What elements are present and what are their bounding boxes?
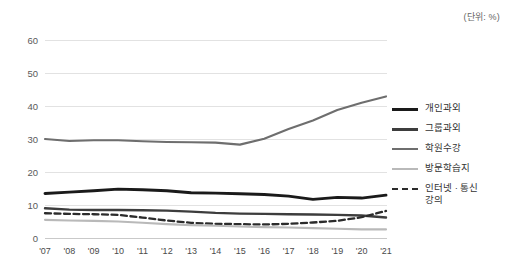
legend-item[interactable]: 그룹과외 <box>392 122 510 137</box>
x-axis-tick-label: '17 <box>283 246 295 256</box>
x-axis-tick-label: '09 <box>88 246 100 256</box>
x-axis-tick-label: '19 <box>331 246 343 256</box>
y-axis-tick-label: 20 <box>27 167 38 178</box>
legend-item[interactable]: 인터넷 · 통신 강의 <box>392 182 510 210</box>
y-axis-tick-label: 60 <box>27 35 38 46</box>
legend-swatch-icon <box>392 182 418 196</box>
legend-swatch-icon <box>392 142 418 156</box>
legend-item[interactable]: 개인과외 <box>392 102 510 117</box>
series-line <box>45 208 386 217</box>
y-axis-tick-label: 30 <box>27 134 38 145</box>
y-axis-tick-label: 10 <box>27 200 38 211</box>
series-line <box>45 189 386 199</box>
legend-item-label: 방문학습지 <box>425 162 470 174</box>
chart-screenshot: (단위: %) 0102030405060 '07'08'09'10'11'12… <box>0 0 510 268</box>
legend-item-label: 인터넷 · 통신 강의 <box>425 182 478 206</box>
y-axis-tick-label: 40 <box>27 101 38 112</box>
x-axis-tick-label: '13 <box>185 246 197 256</box>
x-axis-tick-label: '07 <box>39 246 51 256</box>
x-axis-tick-label: '18 <box>307 246 319 256</box>
legend-item-label: 학원수강 <box>425 142 461 154</box>
x-axis-tick-label: '21 <box>380 246 392 256</box>
legend-item[interactable]: 방문학습지 <box>392 162 510 177</box>
legend-item-label: 그룹과외 <box>425 122 461 134</box>
gridlines <box>45 40 387 238</box>
y-axis-tick-label: 50 <box>27 68 38 79</box>
x-axis-tick-label: '12 <box>161 246 173 256</box>
series-line <box>45 96 386 144</box>
x-axis-tick-label: '15 <box>234 246 246 256</box>
x-axis-tick-label: '16 <box>258 246 270 256</box>
x-axis-tick-label: '14 <box>210 246 222 256</box>
series-lines <box>45 96 386 229</box>
legend-swatch-icon <box>392 162 418 176</box>
x-tick-labels: '07'08'09'10'11'12'13'14'15'16'17'18'19'… <box>39 246 392 256</box>
legend-item[interactable]: 학원수강 <box>392 142 510 157</box>
x-axis-tick-label: '10 <box>112 246 124 256</box>
x-axis-tick-label: '20 <box>356 246 368 256</box>
y-tick-labels: 0102030405060 <box>27 35 38 244</box>
legend-item-label: 개인과외 <box>425 102 461 114</box>
legend-swatch-icon <box>392 102 418 116</box>
x-axis-tick-label: '11 <box>137 246 148 256</box>
chart-legend: 개인과외그룹과외학원수강방문학습지인터넷 · 통신 강의 <box>392 102 510 215</box>
legend-swatch-icon <box>392 122 418 136</box>
x-axis-tick-label: '08 <box>63 246 75 256</box>
y-axis-tick-label: 0 <box>33 233 38 244</box>
